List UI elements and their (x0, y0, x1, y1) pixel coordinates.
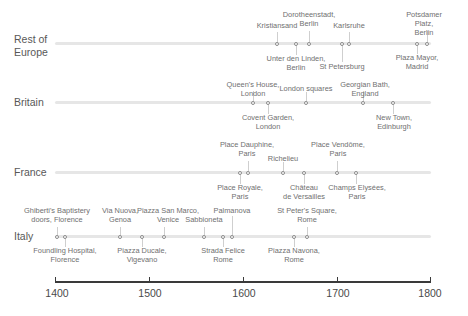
row-label-rest-of-europe: Rest of Europe (14, 33, 48, 58)
event-dot[interactable] (415, 42, 419, 46)
axis-tick-label-1800: 1800 (418, 287, 441, 299)
event-label-st-petersburg: St Petersburg (319, 63, 364, 72)
event-dot[interactable] (335, 171, 339, 175)
connector-stem (277, 32, 278, 42)
event-dot[interactable] (307, 42, 311, 46)
axis-tick-label-1500: 1500 (138, 287, 161, 299)
event-label-plaza-mayor: Plaza Mayor, Madrid (396, 54, 439, 72)
event-dot[interactable] (391, 101, 395, 105)
event-label-strada-felice: Strada Felice Rome (201, 247, 245, 265)
event-dot[interactable] (63, 235, 67, 239)
axis-tick (430, 277, 431, 281)
event-label-palmanova: Palmanova (214, 207, 251, 216)
row-label-britain: Britain (14, 96, 44, 109)
axis-tick-label-1700: 1700 (326, 287, 349, 299)
event-dot[interactable] (425, 42, 429, 46)
event-label-piazza-ducale: Piazza Ducale, Vigevano (117, 247, 166, 265)
connector-stem (307, 227, 308, 235)
event-label-karlsruhe: Karlsruhe (333, 22, 365, 31)
event-label-via-nuova: Via Nuova, Genoa (102, 207, 138, 225)
connector-stem (309, 31, 310, 42)
event-dot[interactable] (246, 171, 250, 175)
timeline-track-italy (55, 235, 431, 238)
axis-line (55, 281, 431, 283)
event-dot[interactable] (55, 235, 59, 239)
event-label-unter-den-linden: Unter den Linden, Berlin (267, 55, 326, 73)
event-label-potsdamer-platz: Potsdamer Platz, Berlin (402, 11, 446, 37)
event-dot[interactable] (202, 235, 206, 239)
event-label-ghibertis-baptistery-doors: Ghiberti's Baptistery doors, Florence (24, 207, 90, 225)
connector-stem (337, 161, 338, 171)
timeline-track-britain (55, 101, 431, 104)
event-dot[interactable] (294, 42, 298, 46)
event-label-dorotheenstadt: Dorotheenstadt, Berlin (283, 11, 336, 29)
event-dot[interactable] (221, 235, 225, 239)
connector-stem (204, 227, 205, 235)
event-dot[interactable] (361, 101, 365, 105)
event-dot[interactable] (281, 171, 285, 175)
event-dot[interactable] (266, 101, 270, 105)
event-dot[interactable] (162, 235, 166, 239)
connector-stem (342, 44, 343, 62)
axis-tick (243, 277, 244, 281)
timeline-track-france (55, 171, 431, 174)
timeline-track-rest-of-europe (55, 42, 431, 45)
event-dot[interactable] (347, 42, 351, 46)
event-label-richelieu: Richelieu (268, 155, 298, 164)
event-label-sabbioneta: Sabbioneta (185, 216, 222, 225)
connector-stem (232, 216, 233, 235)
row-label-italy: Italy (14, 230, 33, 243)
axis-tick (55, 277, 56, 281)
event-label-chateau-de-versailles: Château de Versailles (283, 184, 325, 202)
event-dot[interactable] (140, 235, 144, 239)
event-label-georgian-bath: Georgian Bath, England (340, 81, 390, 99)
event-label-queens-house: Queen's House, London (227, 81, 280, 99)
event-dot[interactable] (302, 171, 306, 175)
row-label-france: France (14, 166, 47, 179)
event-label-piazza-navona: Piazza Navona, Rome (268, 247, 320, 265)
event-label-covent-garden: Covent Garden, London (242, 114, 294, 132)
axis-tick (337, 277, 338, 281)
event-dot[interactable] (354, 171, 358, 175)
connector-stem (164, 227, 165, 235)
event-dot[interactable] (118, 235, 122, 239)
event-dot[interactable] (305, 235, 309, 239)
event-label-london-squares: London squares (279, 85, 332, 94)
connector-stem (57, 227, 58, 235)
event-dot[interactable] (340, 42, 344, 46)
event-dot[interactable] (304, 101, 308, 105)
event-label-champs-elysees: Champs Elysées, Paris (328, 184, 386, 202)
event-label-new-town: New Town, Edinburgh (376, 114, 412, 132)
event-dot[interactable] (230, 235, 234, 239)
event-label-foundling-hospital: Foundling Hospital, Florence (33, 247, 96, 265)
event-dot[interactable] (238, 171, 242, 175)
connector-stem (349, 32, 350, 42)
timeline-chart: Rest of Europe Kristiansand Unter den Li… (0, 0, 468, 316)
axis-tick-label-1600: 1600 (232, 287, 255, 299)
event-label-place-royale: Place Royale, Paris (217, 184, 263, 202)
event-dot[interactable] (275, 42, 279, 46)
connector-stem (248, 161, 249, 171)
event-label-place-dauphine: Place Dauphine, Paris (220, 141, 274, 159)
event-label-place-vendome: Place Vendôme, Paris (311, 141, 365, 159)
event-label-st-peters-square: St Peter's Square, Rome (277, 207, 337, 225)
event-dot[interactable] (251, 101, 255, 105)
axis-tick-label-1400: 1400 (45, 287, 68, 299)
event-dot[interactable] (292, 235, 296, 239)
connector-stem (120, 227, 121, 235)
axis-tick (149, 277, 150, 281)
